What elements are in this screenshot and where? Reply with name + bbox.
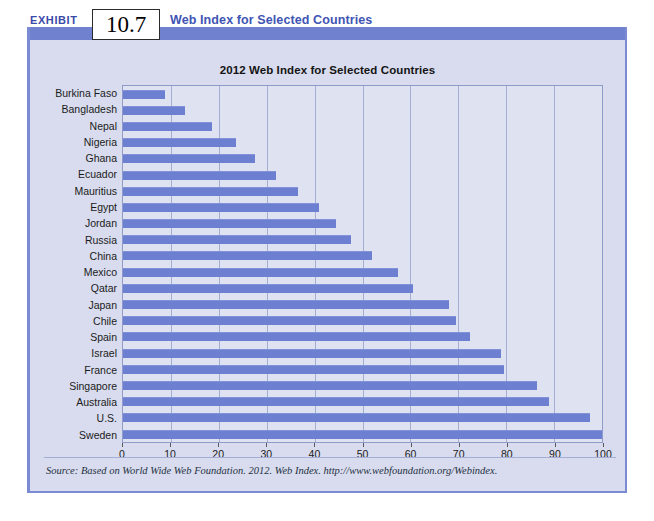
bar-row — [123, 296, 602, 312]
exhibit-panel: 2012 Web Index for Selected Countries Bu… — [27, 27, 627, 493]
y-axis-tick-label: Mauritius — [30, 183, 122, 199]
exhibit-title: Web Index for Selected Countries — [170, 13, 372, 27]
exhibit-number: 10.7 — [106, 13, 146, 36]
y-axis-tick-label: Nepal — [30, 118, 122, 134]
y-axis-tick-label: Burkina Faso — [30, 85, 122, 101]
bar-row — [123, 313, 602, 329]
x-axis-tick-label: 80 — [501, 448, 513, 460]
chart-title: 2012 Web Index for Selected Countries — [30, 64, 625, 76]
y-axis-tick-label: Nigeria — [30, 134, 122, 150]
y-axis-tick-label: Ecuador — [30, 166, 122, 182]
bar-row — [123, 280, 602, 296]
y-axis-tick-label: Chile — [30, 313, 122, 329]
x-axis-tick — [603, 443, 604, 447]
x-axis-tick-label: 70 — [453, 448, 465, 460]
bar — [123, 171, 276, 180]
bar — [123, 300, 449, 309]
x-axis-tick-label: 40 — [309, 448, 321, 460]
x-axis-tick-label: 10 — [164, 448, 176, 460]
source-divider — [44, 457, 616, 458]
bar — [123, 235, 351, 244]
x-axis-tick-label: 30 — [260, 448, 272, 460]
y-axis-tick-label: Spain — [30, 329, 122, 345]
bar — [123, 154, 255, 163]
bar-row — [123, 248, 602, 264]
y-axis-tick-label: Mexico — [30, 264, 122, 280]
x-axis-tick — [459, 443, 460, 447]
bar — [123, 381, 537, 390]
y-axis-tick-label: U.S. — [30, 410, 122, 426]
bar — [123, 106, 185, 115]
x-axis-tick-label: 50 — [357, 448, 369, 460]
x-axis-tick — [411, 443, 412, 447]
y-axis-tick-label: Qatar — [30, 280, 122, 296]
chart-area: Burkina FasoBangladeshNepalNigeriaGhanaE… — [30, 85, 630, 465]
y-axis-tick-label: Ghana — [30, 150, 122, 166]
bar — [123, 316, 456, 325]
y-axis-tick-label: China — [30, 248, 122, 264]
bar-row — [123, 86, 602, 102]
bar-row — [123, 102, 602, 118]
x-axis-tick-label: 90 — [549, 448, 561, 460]
y-axis-tick-label: Bangladesh — [30, 101, 122, 117]
y-axis-tick-label: Sweden — [30, 427, 122, 443]
bar — [123, 203, 319, 212]
bar-row — [123, 329, 602, 345]
y-axis-tick-label: France — [30, 362, 122, 378]
x-axis-tick — [363, 443, 364, 447]
exhibit-number-box: 10.7 — [92, 9, 160, 40]
x-axis-tick-label: 0 — [119, 448, 125, 460]
bar — [123, 430, 602, 439]
bar — [123, 138, 236, 147]
bar-row — [123, 199, 602, 215]
bar-row — [123, 410, 602, 426]
bar-row — [123, 183, 602, 199]
x-axis-tick-label: 20 — [212, 448, 224, 460]
x-axis: 0102030405060708090100 — [122, 443, 603, 465]
x-axis-tick — [314, 443, 315, 447]
bar — [123, 284, 413, 293]
bar — [123, 90, 165, 99]
bar-series — [123, 86, 602, 442]
bar — [123, 251, 372, 260]
bar-row — [123, 232, 602, 248]
bar — [123, 187, 298, 196]
x-axis-tick-label: 100 — [594, 448, 612, 460]
bar-row — [123, 361, 602, 377]
x-axis-tick-label: 60 — [405, 448, 417, 460]
bar-row — [123, 135, 602, 151]
y-axis-tick-label: Egypt — [30, 199, 122, 215]
bar-row — [123, 167, 602, 183]
x-axis-tick — [122, 443, 123, 447]
bar-row — [123, 426, 602, 442]
y-axis-labels: Burkina FasoBangladeshNepalNigeriaGhanaE… — [30, 85, 122, 443]
bar — [123, 122, 212, 131]
y-axis-tick-label: Singapore — [30, 378, 122, 394]
bar — [123, 413, 590, 422]
bar — [123, 397, 549, 406]
bar — [123, 219, 336, 228]
plot-region — [122, 85, 603, 443]
y-axis-tick-label: Australia — [30, 394, 122, 410]
y-axis-tick-label: Jordan — [30, 215, 122, 231]
y-axis-tick-label: Russia — [30, 231, 122, 247]
bar — [123, 365, 504, 374]
bar-row — [123, 216, 602, 232]
y-axis-tick-label: Israel — [30, 345, 122, 361]
bar-row — [123, 394, 602, 410]
x-axis-tick — [507, 443, 508, 447]
x-axis-tick — [555, 443, 556, 447]
x-axis-tick — [266, 443, 267, 447]
bar — [123, 332, 470, 341]
bar — [123, 268, 398, 277]
bar-row — [123, 345, 602, 361]
y-axis-tick-label: Japan — [30, 296, 122, 312]
bar-row — [123, 151, 602, 167]
x-axis-tick — [218, 443, 219, 447]
bar-row — [123, 118, 602, 134]
x-axis-tick — [170, 443, 171, 447]
bar — [123, 349, 501, 358]
exhibit-label: EXHIBIT — [30, 14, 78, 26]
bar-row — [123, 377, 602, 393]
source-note: Source: Based on World Wide Web Foundati… — [46, 465, 621, 476]
